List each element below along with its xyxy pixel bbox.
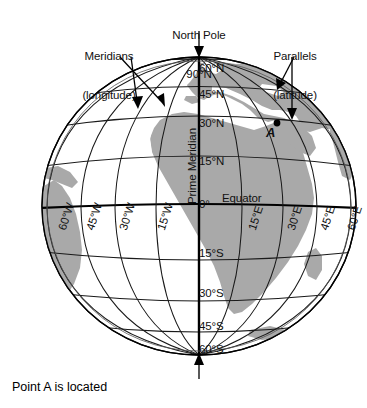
parallels-annotation: Parallels (latitude) [252, 24, 338, 128]
latitude-label-30S: 30°S [199, 287, 224, 300]
latitude-label-15S: 15°S [199, 247, 224, 260]
latitude-label-45N: 45°N [199, 88, 224, 101]
caption-line-1-text: Point A is located [12, 380, 107, 394]
prime-meridian-label: Prime Meridian [186, 114, 200, 204]
land-india-fleck [338, 100, 356, 114]
latitude-label-45S: 45°S [199, 320, 224, 333]
meridians-annotation: Meridians (longitude) [62, 24, 156, 128]
equator-label: Equator [222, 192, 262, 205]
meridians-annotation-line2: (longitude) [62, 89, 156, 102]
figure-caption: Point A is located at 30°N latitude and … [12, 345, 121, 408]
north-pole-label: North Pole [152, 29, 246, 42]
point-a-label: A [266, 126, 275, 139]
latitude-label-60N: 60°N [199, 62, 224, 75]
latitude-label-0: 0° [199, 198, 210, 211]
globe-figure: Meridians (longitude) Parallels (latitud… [0, 0, 367, 408]
parallels-annotation-line2: (latitude) [252, 89, 338, 102]
meridians-annotation-line1: Meridians [62, 50, 156, 63]
latitude-label-60S: 60°S [199, 343, 224, 356]
caption-line-1: Point A is located [12, 362, 121, 396]
parallels-annotation-line1: Parallels [252, 50, 338, 63]
south-pole-annotation: South Pole 90°S [152, 381, 246, 408]
latitude-label-15N: 15°N [199, 155, 224, 168]
latitude-label-30N: 30°N [199, 117, 224, 130]
